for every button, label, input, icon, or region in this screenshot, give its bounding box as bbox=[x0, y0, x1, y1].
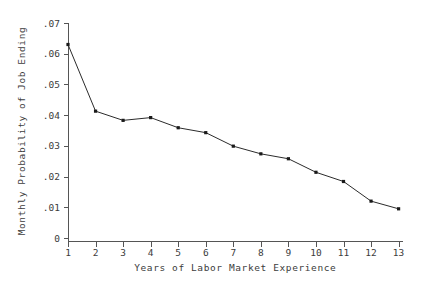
y-tick-label: .05 bbox=[43, 79, 60, 90]
data-point-marker bbox=[149, 116, 152, 119]
y-tick-label: .03 bbox=[43, 140, 60, 151]
x-tick-label: 1 bbox=[65, 247, 71, 258]
chart-canvas: 0.01.02.03.04.05.06.07 12345678910111213… bbox=[0, 0, 426, 285]
x-tick-label: 13 bbox=[393, 247, 404, 258]
data-point-marker bbox=[66, 43, 69, 46]
data-point-marker bbox=[232, 145, 235, 148]
x-tick-label: 7 bbox=[230, 247, 236, 258]
x-axis-title: Years of Labor Market Experience bbox=[134, 262, 336, 273]
y-tick-label: .06 bbox=[43, 48, 60, 59]
x-tick-label: 4 bbox=[148, 247, 154, 258]
x-tick-label: 11 bbox=[338, 247, 350, 258]
y-tick-label: 0 bbox=[54, 233, 60, 244]
x-tick-label: 8 bbox=[258, 247, 264, 258]
data-point-marker bbox=[314, 171, 317, 174]
data-point-marker bbox=[342, 180, 345, 183]
x-tick-label: 6 bbox=[203, 247, 209, 258]
data-point-marker bbox=[204, 131, 207, 134]
data-point-marker bbox=[369, 200, 372, 203]
x-tick-label: 3 bbox=[120, 247, 126, 258]
data-point-marker bbox=[122, 119, 125, 122]
data-point-marker bbox=[287, 157, 290, 160]
x-tick-label: 10 bbox=[310, 247, 322, 258]
data-point-marker bbox=[259, 152, 262, 155]
chart-background bbox=[0, 0, 426, 285]
x-tick-label: 9 bbox=[286, 247, 292, 258]
y-tick-label: .04 bbox=[43, 110, 60, 121]
data-point-marker bbox=[177, 126, 180, 129]
y-tick-label: .07 bbox=[43, 18, 60, 29]
y-axis-title: Monthly Probability of Job Ending bbox=[16, 27, 27, 236]
y-tick-label: .01 bbox=[43, 202, 60, 213]
data-point-marker bbox=[94, 110, 97, 113]
data-point-marker bbox=[397, 207, 400, 210]
x-tick-label: 12 bbox=[365, 247, 376, 258]
y-tick-label: .02 bbox=[43, 171, 60, 182]
chart-figure: 0.01.02.03.04.05.06.07 12345678910111213… bbox=[0, 0, 426, 285]
x-tick-label: 2 bbox=[93, 247, 99, 258]
x-tick-label: 5 bbox=[175, 247, 181, 258]
